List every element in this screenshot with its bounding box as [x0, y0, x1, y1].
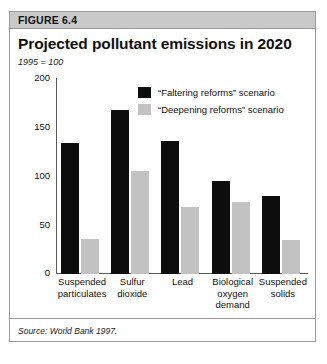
- bar-group: [262, 67, 312, 274]
- index-note: 1995 = 100: [10, 52, 315, 67]
- bar: [161, 141, 179, 274]
- x-axis-category-labels: SuspendedparticulatesSulfurdioxideLeadBi…: [57, 276, 308, 320]
- figure-container: FIGURE 6.4 Projected pollutant emissions…: [9, 11, 316, 342]
- bar: [61, 143, 79, 274]
- bars-layer: [57, 67, 308, 274]
- bar: [262, 196, 280, 274]
- y-tick-50: 50: [24, 219, 50, 230]
- bar: [131, 171, 149, 274]
- bar: [181, 207, 199, 274]
- source-divider: [10, 318, 315, 319]
- y-tick-100: 100: [24, 170, 50, 181]
- figure-title: Projected pollutant emissions in 2020: [10, 29, 315, 52]
- figure-header-band: FIGURE 6.4: [10, 12, 315, 29]
- bar: [212, 181, 230, 274]
- x-axis-category-label: Suspendedsolids: [254, 276, 312, 299]
- bar: [282, 240, 300, 274]
- bar: [81, 239, 99, 274]
- bar-group: [61, 67, 111, 274]
- bar-group: [161, 67, 211, 274]
- figure-number-label: FIGURE 6.4: [18, 14, 77, 26]
- bar: [111, 110, 129, 274]
- y-tick-0: 0: [24, 267, 50, 278]
- bar-group: [212, 67, 262, 274]
- bar: [232, 202, 250, 274]
- chart-plot-area: 200 150 100 50 0 “Faltering reforms” sce…: [10, 67, 316, 319]
- bar-group: [111, 67, 161, 274]
- y-tick-200: 200: [24, 72, 50, 83]
- source-note: Source: World Bank 1997.: [18, 326, 117, 336]
- y-tick-150: 150: [24, 121, 50, 132]
